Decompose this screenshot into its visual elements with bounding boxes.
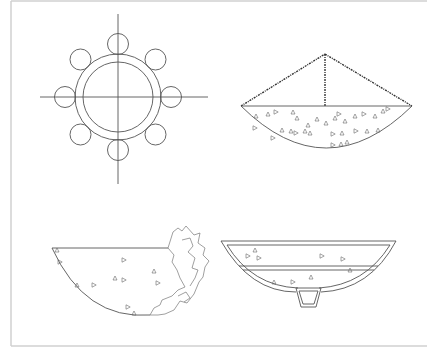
ring-with-eight-circles [40,14,208,184]
drawing-frame [11,1,427,346]
drawing-canvas [0,0,427,351]
segment-with-pitched-roof [241,54,412,148]
double-walled-bowl [221,241,396,307]
broken-half-segment [52,226,209,315]
aggregate-triangles [55,248,160,315]
aggregate-triangles [253,107,390,147]
